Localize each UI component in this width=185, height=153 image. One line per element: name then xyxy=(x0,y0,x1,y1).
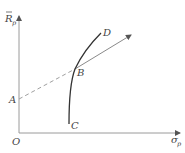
diagram-canvas: R p σ p O A B C D xyxy=(0,0,185,153)
y-axis-label: R p xyxy=(4,12,17,27)
point-label-b: B xyxy=(76,67,84,78)
frontier-curve xyxy=(69,33,101,124)
point-label-d: D xyxy=(102,27,111,38)
point-label-a: A xyxy=(8,94,16,105)
x-axis-label: σ p xyxy=(171,134,182,148)
x-axis-label-sub: p xyxy=(177,140,182,148)
capital-market-line xyxy=(75,35,131,69)
dashed-line-a-b xyxy=(19,69,75,99)
y-axis-label-sub: p xyxy=(12,19,17,27)
origin-label: O xyxy=(12,136,20,147)
point-label-c: C xyxy=(71,120,79,131)
